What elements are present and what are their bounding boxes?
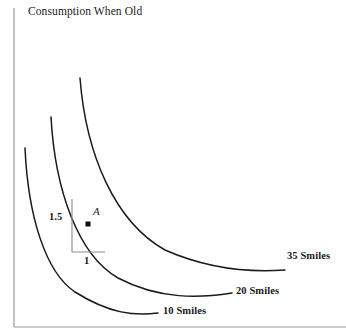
point-a-label: A [93, 206, 100, 217]
indifference-curve-20 [51, 117, 232, 296]
curve-label-10-smiles: 10 Smiles [163, 306, 206, 317]
curve-label-20-smiles: 20 Smiles [236, 286, 279, 297]
point-a-marker [86, 222, 91, 227]
plot-area [0, 0, 346, 335]
curve-label-35-smiles: 35 Smiles [287, 251, 330, 262]
slope-triangle-horizontal-label: 1 [84, 256, 89, 267]
chart-title: Consumption When Old [28, 6, 142, 18]
indifference-curve-figure: Consumption When Old 10 Smiles 20 Smiles… [0, 0, 346, 335]
indifference-curve-35 [80, 78, 285, 271]
indifference-curve-10 [25, 148, 158, 314]
slope-triangle-vertical-label: 1.5 [49, 212, 62, 223]
